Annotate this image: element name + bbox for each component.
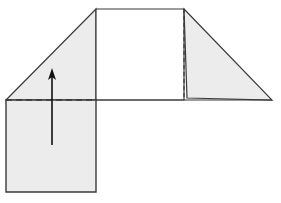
top-center-square	[96, 9, 184, 100]
left-triangle-flap	[6, 9, 96, 100]
origami-diagram	[0, 0, 281, 203]
bottom-left-rect	[6, 100, 96, 192]
diagram-canvas	[0, 0, 281, 203]
right-folded-flap	[184, 9, 272, 100]
